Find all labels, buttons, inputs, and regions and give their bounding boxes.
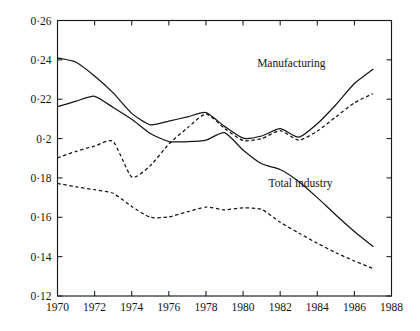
chart-background (0, 0, 420, 331)
y-tick-label-3: 0·18 (30, 172, 51, 184)
y-tick-label-4: 0·2 (36, 133, 52, 145)
y-tick-label-1: 0·14 (30, 251, 51, 263)
x-tick-label-0: 1970 (46, 301, 69, 313)
y-tick-label-6: 0·24 (30, 54, 51, 66)
x-tick-label-2: 1974 (120, 301, 143, 313)
y-tick-label-2: 0·16 (30, 211, 51, 223)
y-tick-label-7: 0·26 (30, 15, 51, 27)
y-tick-label-5: 0·22 (30, 93, 51, 105)
annotation-label-0: Manufacturing (257, 57, 326, 70)
x-tick-label-9: 1988 (380, 301, 403, 313)
x-tick-label-4: 1978 (194, 301, 217, 313)
unit-labour-cost-line-chart: 0·120·140·160·180·20·220·240·26 19701972… (0, 0, 420, 331)
x-tick-label-7: 1984 (306, 301, 329, 313)
x-tick-label-5: 1980 (232, 301, 255, 313)
x-tick-label-6: 1982 (269, 301, 292, 313)
x-tick-label-1: 1972 (83, 301, 106, 313)
annotation-label-1: Total industry (269, 177, 333, 190)
x-tick-label-8: 1986 (343, 301, 366, 313)
x-tick-label-3: 1976 (157, 301, 180, 313)
